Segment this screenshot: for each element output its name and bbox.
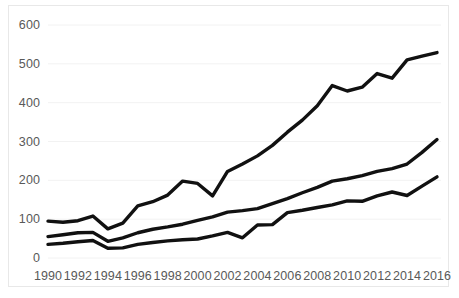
y-tick-label-200: 200 xyxy=(6,174,40,187)
series-lower-line xyxy=(48,177,437,248)
gridline-group xyxy=(48,25,441,258)
y-tick-label-100: 100 xyxy=(6,213,40,226)
x-tick-label-2016: 2016 xyxy=(417,270,457,283)
series-upper-line xyxy=(48,53,437,229)
y-tick-label-500: 500 xyxy=(6,58,40,71)
y-tick-label-0: 0 xyxy=(6,252,40,265)
chart-plot-area xyxy=(0,0,459,298)
y-tick-label-300: 300 xyxy=(6,136,40,149)
y-tick-label-600: 600 xyxy=(6,19,40,32)
chart-container: 0100200300400500600 19901992199419961998… xyxy=(0,0,459,298)
y-tick-label-400: 400 xyxy=(6,97,40,110)
